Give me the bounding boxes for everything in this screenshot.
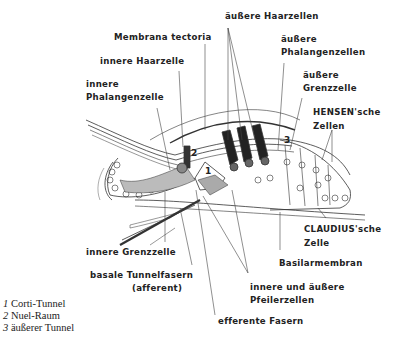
label-hensen-line2: Zellen <box>313 120 345 133</box>
legend-item: 3 äußerer Tunnel <box>3 322 74 334</box>
region-number-3: 3 <box>284 135 290 145</box>
label-basale-tunnelfasern-line2: (afferent) <box>132 282 182 295</box>
organ-of-corti-diagram: 1 2 3 Membrana tectoria innere Haarzelle… <box>0 0 397 345</box>
label-claudius-line2: Zelle <box>304 237 329 250</box>
label-innere-phalangenzelle-line1: innere <box>86 78 119 91</box>
label-claudius-line1: CLAUDIUS'sche <box>304 223 381 236</box>
label-aeussere-phalangenzellen-line1: äußere <box>281 33 317 46</box>
label-hensen-line1: HENSEN'sche <box>313 106 381 119</box>
label-basale-tunnelfasern-line1: basale Tunnelfasern <box>90 269 193 282</box>
label-efferente-fasern: efferente Fasern <box>218 315 304 328</box>
legend-item: 1 Corti-Tunnel <box>3 298 74 310</box>
legend: 1 Corti-Tunnel 2 Nuel-Raum 3 äußerer Tun… <box>3 298 74 334</box>
label-aeussere-haarzellen: äußere Haarzellen <box>225 10 319 23</box>
region-number-2: 2 <box>191 148 197 158</box>
legend-item: 2 Nuel-Raum <box>3 310 74 322</box>
label-aeussere-grenzzelle-line1: äußere <box>303 69 339 82</box>
region-number-1: 1 <box>205 166 211 176</box>
label-innere-grenzzelle: innere Grenzzelle <box>86 246 176 259</box>
label-innere-haarzelle: innere Haarzelle <box>100 55 184 68</box>
label-innere-phalangenzelle-line2: Phalangenzelle <box>86 91 164 104</box>
label-basilarmembran: Basilarmembran <box>279 257 363 270</box>
label-pfeilerzellen-line1: innere und äußere <box>250 281 345 294</box>
label-membrana-tectoria: Membrana tectoria <box>114 31 212 44</box>
label-aeussere-grenzzelle-line2: Grenzzelle <box>303 82 357 95</box>
label-aeussere-phalangenzellen-line2: Phalangenzellen <box>281 46 365 59</box>
label-pfeilerzellen-line2: Pfeilerzellen <box>250 294 314 307</box>
